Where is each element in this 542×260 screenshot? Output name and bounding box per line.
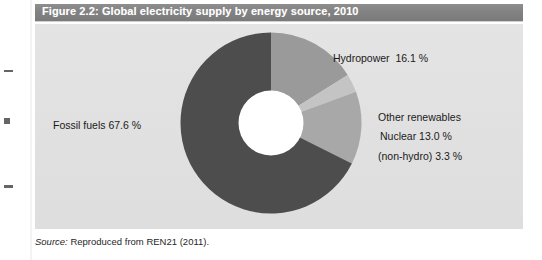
scan-tick-mark xyxy=(4,185,13,188)
donut-hole xyxy=(239,91,304,156)
page-edge-shadow xyxy=(30,0,32,260)
figure-title-bar: Figure 2.2: Global electricity supply by… xyxy=(35,4,523,21)
source-text: Reproduced from REN21 (2011). xyxy=(68,236,209,247)
figure-title: Figure 2.2: Global electricity supply by… xyxy=(42,5,359,17)
figure-source-note: Source: Reproduced from REN21 (2011). xyxy=(35,236,209,247)
chart-panel: Hydropower 16.1 % Other renewables (non-… xyxy=(35,24,523,229)
pie-label-other-renewables-line2: (non-hydro) 3.3 % xyxy=(378,150,462,163)
pie-label-nuclear: Nuclear 13.0 % xyxy=(380,130,452,143)
source-label: Source: xyxy=(35,236,68,247)
scan-tick-mark xyxy=(4,118,10,124)
scan-tick-mark xyxy=(4,70,13,72)
pie-label-hydropower: Hydropower 16.1 % xyxy=(333,52,428,65)
figure-container: Figure 2.2: Global electricity supply by… xyxy=(35,4,523,229)
pie-label-other-renewables-line1: Other renewables xyxy=(378,111,462,124)
pie-label-fossil-fuels: Fossil fuels 67.6 % xyxy=(53,119,141,132)
